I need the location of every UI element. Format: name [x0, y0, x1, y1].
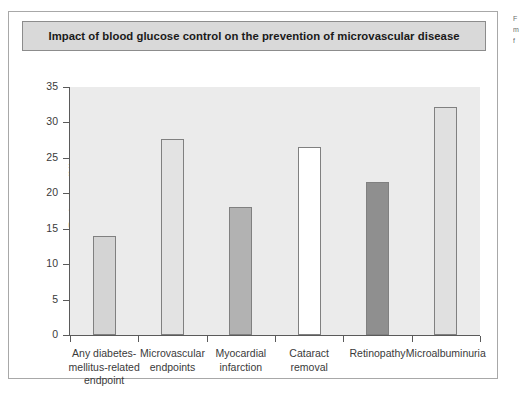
y-axis-line: [69, 87, 70, 336]
y-axis-tick: [63, 229, 69, 230]
margin-notes: Fmf: [513, 13, 530, 47]
y-axis-tick: [63, 335, 69, 336]
chart-title: Impact of blood glucose control on the p…: [48, 30, 459, 42]
x-axis-tick: [480, 336, 481, 342]
y-axis-tick-label: 35: [18, 81, 58, 92]
y-axis-tick-label: 25: [18, 152, 58, 163]
chart-region: Reduction (%) 05101520253035 Any diabete…: [22, 61, 486, 371]
y-axis-tick-label: 5: [18, 294, 58, 305]
y-axis-tick: [63, 87, 69, 88]
bar: [298, 147, 321, 335]
x-axis-tick: [412, 336, 413, 342]
x-axis-tick: [70, 336, 71, 342]
chart-title-banner: Impact of blood glucose control on the p…: [22, 21, 486, 51]
x-axis-label: Microalbuminuria: [394, 347, 498, 361]
y-axis-tick: [63, 264, 69, 265]
bar: [229, 207, 252, 335]
y-axis-tick: [63, 158, 69, 159]
margin-note-line: f: [513, 35, 530, 46]
x-axis-tick: [207, 336, 208, 342]
y-axis-tick-label: 10: [18, 258, 58, 269]
bar: [161, 139, 184, 335]
y-axis-tick-label: 30: [18, 116, 58, 127]
bar: [366, 182, 389, 335]
y-axis-tick: [63, 122, 69, 123]
y-axis-tick-label: 15: [18, 223, 58, 234]
x-axis-tick: [275, 336, 276, 342]
bar: [434, 107, 457, 335]
y-axis-tick: [63, 300, 69, 301]
plot-area: [70, 87, 480, 335]
x-axis-tick: [138, 336, 139, 342]
y-axis-tick-label: 20: [18, 187, 58, 198]
y-axis-tick-label: 0: [18, 329, 58, 340]
x-axis-tick: [343, 336, 344, 342]
figure-frame: Impact of blood glucose control on the p…: [8, 11, 498, 379]
margin-note-line: m: [513, 24, 530, 35]
y-axis-tick: [63, 193, 69, 194]
margin-note-line: F: [513, 13, 530, 24]
bar: [93, 236, 116, 335]
